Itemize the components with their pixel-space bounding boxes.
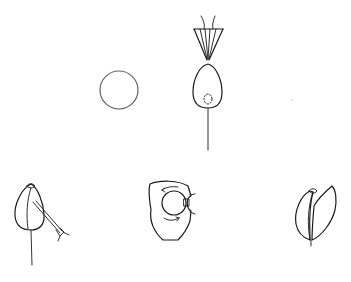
bud-with-instrument-figure xyxy=(15,184,69,265)
split-bud-figure xyxy=(296,186,336,246)
line-drawing-canvas xyxy=(0,0,351,282)
speck xyxy=(291,99,292,100)
funnel-over-bud-figure xyxy=(193,16,223,150)
rotation-cross-section-figure xyxy=(149,181,195,240)
circle-figure xyxy=(100,71,138,109)
